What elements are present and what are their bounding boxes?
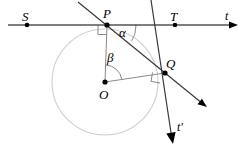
- point-p-dot: [104, 22, 109, 27]
- beta-angle-arc: [106, 65, 122, 79]
- point-label-p: P: [103, 7, 111, 20]
- point-q-dot: [162, 70, 167, 75]
- point-label-o: O: [99, 88, 108, 101]
- radius-oq-segment: [105, 73, 165, 82]
- line-label-t: t: [225, 10, 228, 22]
- diagram-canvas: [0, 0, 247, 157]
- angle-label-beta: β: [107, 51, 113, 64]
- angle-label-alpha: α: [119, 26, 126, 39]
- point-label-q: Q: [166, 57, 175, 70]
- secant-line-pq: [78, 2, 200, 102]
- point-label-t: T: [170, 10, 177, 23]
- point-o-dot: [102, 79, 107, 84]
- tangent-line-t-arrowhead: [229, 21, 238, 28]
- geometry-diagram: S P T Q O t t' α β: [0, 0, 247, 157]
- line-label-t-prime: t': [177, 121, 183, 133]
- point-label-s: S: [22, 10, 29, 23]
- line-t-prime-arrowhead: [166, 132, 175, 144]
